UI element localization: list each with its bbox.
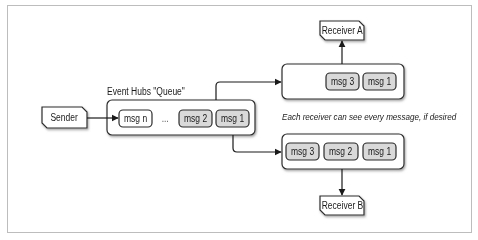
receiver-a-label: Receiver A bbox=[320, 21, 364, 40]
receiver-a-msg-1-label: msg 1 bbox=[363, 73, 396, 90]
queue-title: Event Hubs "Queue" bbox=[107, 86, 185, 97]
arrow-queue-to-receiver-a bbox=[216, 82, 281, 100]
arrow-queue-to-receiver-b bbox=[233, 135, 281, 152]
receiver-a-msg-3-label: msg 3 bbox=[326, 73, 359, 90]
queue-msg-n-label: msg n bbox=[119, 110, 152, 127]
queue-msg-2-label: msg 2 bbox=[179, 110, 212, 127]
queue-ellipsis: ... bbox=[155, 110, 175, 127]
receiver-b-msg-3-label: msg 3 bbox=[286, 143, 319, 160]
caption-text: Each receiver can see every message, if … bbox=[282, 111, 456, 122]
queue-msg-1-label: msg 1 bbox=[216, 110, 249, 127]
receiver-b-label: Receiver B bbox=[320, 196, 364, 215]
receiver-b-msg-2-label: msg 2 bbox=[324, 143, 358, 160]
receiver-b-msg-1-label: msg 1 bbox=[363, 143, 396, 160]
sender-label: Sender bbox=[42, 107, 87, 128]
